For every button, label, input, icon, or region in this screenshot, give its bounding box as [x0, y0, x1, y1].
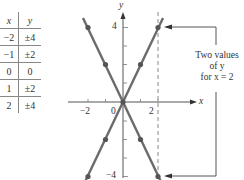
y-axis-arrow-icon	[121, 12, 126, 19]
x-tick-neg2: −2	[80, 106, 90, 117]
arrow-bottom-icon	[164, 174, 172, 179]
annotation-line-3: for x = 2	[190, 72, 244, 83]
graph-canvas	[0, 0, 244, 180]
x-tick-zero: 0	[111, 106, 116, 117]
arrow-top-icon	[164, 25, 172, 30]
x-axis-arrow-icon	[190, 100, 197, 105]
x-tick-pos2: 2	[149, 106, 154, 117]
x-axis-label: x	[199, 96, 203, 107]
y-axis-label: y	[119, 0, 123, 11]
annotation-line-2: of y	[190, 61, 244, 72]
annotation-text: Two values of y for x = 2	[190, 50, 244, 83]
y-tick-pos4: 4	[112, 21, 117, 32]
y-tick-neg4: −4	[106, 170, 116, 180]
annotation-line-1: Two values	[190, 50, 244, 61]
